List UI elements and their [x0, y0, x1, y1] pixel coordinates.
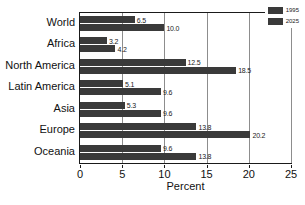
bar-value-label: 12.5 — [188, 59, 201, 66]
bar-value-label: 9.6 — [163, 88, 172, 95]
y-axis-label-oceania: Oceania — [34, 141, 75, 162]
bar-value-label: 13.8 — [198, 123, 211, 130]
x-axis-title: Percent — [79, 180, 292, 193]
bar-value-label: 5.1 — [125, 80, 134, 87]
bar-value-label: 3.2 — [109, 37, 118, 44]
bar-value-label: 13.8 — [198, 153, 211, 160]
x-axis-ticks: 0510152025 — [79, 165, 292, 179]
gridline — [291, 13, 292, 163]
bar-group: 9.613.8 — [80, 142, 291, 163]
y-axis-label-europe: Europe — [40, 119, 75, 140]
legend-label: 2025 — [286, 18, 299, 24]
footer-text-remnant — [6, 197, 186, 205]
bar-europe-1995: 13.8 — [80, 123, 196, 130]
x-tick-label: 25 — [285, 168, 297, 180]
legend-label: 1995 — [286, 7, 299, 13]
bar-group: 3.24.2 — [80, 34, 291, 55]
bar-oceania-1995: 9.6 — [80, 145, 161, 152]
y-axis-category-labels: WorldAfricaNorth AmericaLatin AmericaAsi… — [0, 12, 75, 164]
legend-swatch-icon — [268, 7, 283, 14]
bar-value-label: 4.2 — [117, 45, 126, 52]
y-axis-label-world: World — [46, 12, 75, 33]
bar-group: 12.518.5 — [80, 56, 291, 77]
bar-group: 5.19.6 — [80, 77, 291, 98]
bar-value-label: 20.2 — [252, 131, 265, 138]
bar-world-1995: 6.5 — [80, 16, 135, 23]
x-tick-label: 15 — [200, 168, 212, 180]
bar-asia-2025: 9.6 — [80, 110, 161, 117]
plot-area: 6.510.03.24.212.518.55.19.65.39.613.820.… — [79, 12, 292, 164]
legend-item-2025: 2025 — [268, 17, 299, 25]
bar-value-label: 6.5 — [137, 16, 146, 23]
bar-latin-america-2025: 9.6 — [80, 88, 161, 95]
bar-value-label: 10.0 — [166, 24, 179, 31]
x-tick-label: 20 — [243, 168, 255, 180]
bar-value-label: 5.3 — [127, 102, 136, 109]
bar-group: 5.39.6 — [80, 99, 291, 120]
bar-value-label: 9.6 — [163, 145, 172, 152]
bar-africa-2025: 4.2 — [80, 45, 115, 52]
bar-asia-1995: 5.3 — [80, 102, 125, 109]
bar-group: 6.510.0 — [80, 13, 291, 34]
bar-north-america-1995: 12.5 — [80, 59, 186, 66]
legend-swatch-icon — [268, 18, 283, 25]
bar-chart-figure: WorldAfricaNorth AmericaLatin AmericaAsi… — [0, 0, 305, 205]
legend-item-1995: 1995 — [268, 6, 299, 14]
bar-value-label: 18.5 — [238, 67, 251, 74]
bar-latin-america-1995: 5.1 — [80, 80, 123, 87]
y-axis-label-africa: Africa — [47, 33, 75, 54]
bar-value-label: 9.6 — [163, 110, 172, 117]
y-axis-label-latin-america: Latin America — [8, 76, 75, 97]
y-axis-label-asia: Asia — [54, 98, 75, 119]
chart-legend: 19952025 — [265, 3, 302, 28]
bar-oceania-2025: 13.8 — [80, 153, 196, 160]
bar-world-2025: 10.0 — [80, 24, 164, 31]
x-tick-label: 5 — [119, 168, 125, 180]
x-tick-label: 10 — [158, 168, 170, 180]
bar-africa-1995: 3.2 — [80, 37, 107, 44]
bar-group: 13.820.2 — [80, 120, 291, 141]
x-tick-label: 0 — [77, 168, 83, 180]
y-axis-label-north-america: North America — [5, 55, 75, 76]
bar-north-america-2025: 18.5 — [80, 67, 236, 74]
bar-europe-2025: 20.2 — [80, 131, 250, 138]
